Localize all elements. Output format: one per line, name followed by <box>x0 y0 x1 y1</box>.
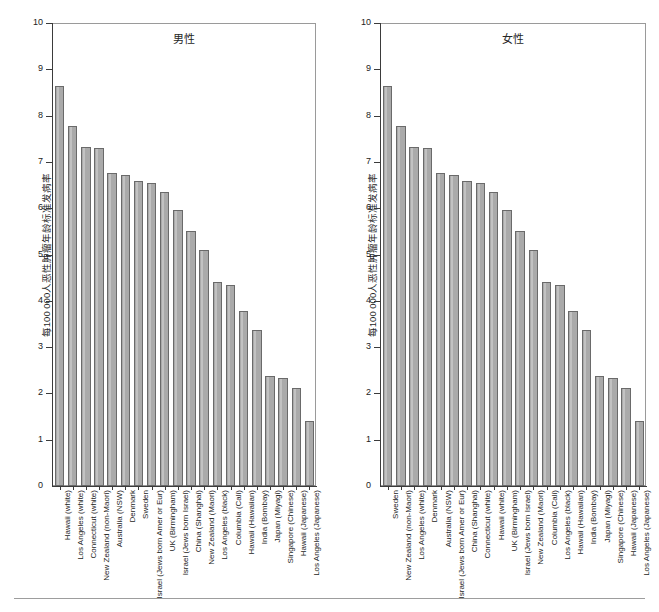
chart-panel-female: 女性 每100 000人恶性肿瘤年龄标准发病率 0 12345678910 Sw… <box>330 0 659 600</box>
bar-female-15[interactable] <box>582 23 592 486</box>
bar-female-16[interactable] <box>595 23 605 486</box>
x-tick-female-7 <box>480 486 481 490</box>
y-tick-label-5-female: 5 <box>366 249 371 259</box>
x-axis-label-text: Australia (NSW) <box>115 490 124 547</box>
x-tick-male-2 <box>86 486 87 490</box>
bar-female-19[interactable] <box>635 23 645 486</box>
x-axis-label-text: Japan (Miyagi) <box>603 490 612 542</box>
x-tick-male-9 <box>178 486 179 490</box>
x-axis-label-male-10: China (Shanghai) <box>194 490 203 552</box>
bar-female-17[interactable] <box>608 23 618 486</box>
y-tick-label-3-female: 3 <box>366 341 371 351</box>
x-axis-label-text: Hawaii (white) <box>63 490 72 540</box>
bar-male-4[interactable] <box>107 23 116 486</box>
y-tick-5-male: 5 <box>46 255 52 256</box>
x-tick-male-16 <box>270 486 271 490</box>
bar-male-17[interactable] <box>278 23 287 486</box>
bar-male-11[interactable] <box>199 23 208 486</box>
y-tick-label-0-female: 0 <box>366 480 371 490</box>
x-tick-female-14 <box>573 486 574 490</box>
bar-male-9[interactable] <box>173 23 182 486</box>
x-tick-male-14 <box>244 486 245 490</box>
x-tick-female-1 <box>401 486 402 490</box>
bar-male-14[interactable] <box>239 23 248 486</box>
x-axis-label-female-8: Hawaii (white) <box>497 490 506 540</box>
bar-male-19[interactable] <box>305 23 314 486</box>
y-tick-label-10-male: 10 <box>33 17 43 27</box>
x-tick-male-5 <box>125 486 126 490</box>
x-tick-male-1 <box>73 486 74 490</box>
bar-female-1[interactable] <box>396 23 406 486</box>
bar-group-male <box>53 23 316 486</box>
x-axis-label-female-3: Denmark <box>430 490 439 522</box>
bar-female-5[interactable] <box>449 23 459 486</box>
x-tick-male-13 <box>231 486 232 490</box>
x-axis-label-female-7: Connecticut (white) <box>483 490 492 558</box>
y-tick-label-10-female: 10 <box>361 17 371 27</box>
x-axis-label-text: Israel (Jews born Amer or Eur) <box>155 490 164 598</box>
bar-female-12[interactable] <box>542 23 552 486</box>
bar-male-7[interactable] <box>147 23 156 486</box>
x-tick-female-3 <box>427 486 428 490</box>
x-tick-male-11 <box>204 486 205 490</box>
bar-female-2[interactable] <box>409 23 419 486</box>
x-axis-label-text: UK (Birmingham) <box>510 490 519 551</box>
bar-rect <box>239 311 248 486</box>
bar-female-7[interactable] <box>476 23 486 486</box>
bar-male-13[interactable] <box>226 23 235 486</box>
bar-female-18[interactable] <box>621 23 631 486</box>
x-axis-label-text: Hawaii (Japanese) <box>299 490 308 556</box>
bar-male-15[interactable] <box>252 23 261 486</box>
x-axis-label-text: China (Shanghai) <box>470 490 479 552</box>
bar-female-4[interactable] <box>436 23 446 486</box>
x-tick-female-11 <box>533 486 534 490</box>
bar-rect <box>396 126 406 486</box>
bar-male-18[interactable] <box>292 23 301 486</box>
x-axis-label-female-18: Hawaii (Japanese) <box>629 490 638 556</box>
x-tick-female-13 <box>560 486 561 490</box>
bar-female-0[interactable] <box>383 23 393 486</box>
x-axis-label-male-9: Israel (Jews born Israel) <box>181 490 190 575</box>
x-axis-label-female-16: Japan (Miyagi) <box>603 490 612 542</box>
y-tick-label-9-female: 9 <box>366 63 371 73</box>
bar-male-8[interactable] <box>160 23 169 486</box>
x-tick-female-12 <box>547 486 548 490</box>
x-axis-label-male-18: Hawaii (Japanese) <box>299 490 308 556</box>
x-axis-label-text: India (Bombay) <box>589 490 598 544</box>
x-axis-label-male-2: Connecticut (white) <box>89 490 98 558</box>
bar-male-1[interactable] <box>68 23 77 486</box>
x-axis-line-male <box>52 486 317 487</box>
bar-female-8[interactable] <box>489 23 499 486</box>
x-axis-label-text: Connecticut (white) <box>483 490 492 558</box>
bar-male-6[interactable] <box>134 23 143 486</box>
bar-female-9[interactable] <box>502 23 512 486</box>
y-tick-3-female: 3 <box>374 347 380 348</box>
bar-male-12[interactable] <box>213 23 222 486</box>
bar-rect <box>265 376 274 486</box>
bar-male-5[interactable] <box>121 23 130 486</box>
y-tick-5-female: 5 <box>374 255 380 256</box>
bar-male-2[interactable] <box>81 23 90 486</box>
bar-female-6[interactable] <box>462 23 472 486</box>
x-axis-label-male-13: Columbia (Cali) <box>234 490 243 545</box>
x-tick-male-17 <box>283 486 284 490</box>
bar-male-10[interactable] <box>186 23 195 486</box>
bar-male-0[interactable] <box>55 23 64 486</box>
bar-female-3[interactable] <box>423 23 433 486</box>
bar-female-10[interactable] <box>515 23 525 486</box>
y-tick-label-8-male: 8 <box>38 110 43 120</box>
y-tick-4-female: 4 <box>374 301 380 302</box>
x-axis-label-text: Los Angeles (Japanese) <box>642 490 651 576</box>
bar-female-14[interactable] <box>568 23 578 486</box>
bar-male-3[interactable] <box>94 23 103 486</box>
bar-female-13[interactable] <box>555 23 565 486</box>
x-axis-label-text: Connecticut (white) <box>89 490 98 558</box>
bar-group-female <box>381 23 646 486</box>
x-axis-label-text: Los Angeles (black) <box>220 490 229 560</box>
bar-female-11[interactable] <box>529 23 539 486</box>
x-tick-female-19 <box>639 486 640 490</box>
y-tick-3-male: 3 <box>46 347 52 348</box>
bar-male-16[interactable] <box>265 23 274 486</box>
bar-rect <box>608 378 618 486</box>
x-axis-label-male-3: New Zealand (non-Maori) <box>102 490 111 581</box>
